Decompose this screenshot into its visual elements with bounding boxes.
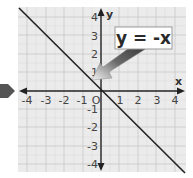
coordinate-graph: x y -4 -3 -2 -1 O 1 2 3 4 4 3 2 1 -1 -2 …	[0, 0, 193, 178]
x-axis-label: x	[175, 75, 182, 88]
x-tick-label: -1	[77, 94, 88, 107]
y-tick-label: 2	[91, 48, 98, 61]
y-tick-label: -1	[87, 103, 98, 116]
x-tick-label: -3	[41, 94, 52, 107]
x-tick-labels: -4 -3 -2 -1 O 1 2 3 4	[22, 94, 179, 107]
side-pointer-arrow	[0, 84, 15, 98]
y-axis-label: y	[106, 8, 113, 21]
y-tick-label: -4	[87, 158, 98, 171]
x-tick-label: 1	[117, 94, 124, 107]
y-tick-label: 3	[91, 30, 98, 43]
y-tick-label: 4	[91, 11, 98, 24]
y-tick-label: -2	[87, 121, 98, 134]
x-tick-label: 4	[172, 94, 179, 107]
x-tick-label: 3	[154, 94, 161, 107]
y-tick-label: -3	[87, 140, 98, 153]
x-tick-label: -4	[22, 94, 33, 107]
x-tick-label: -2	[59, 94, 70, 107]
x-tick-label: 2	[135, 94, 142, 107]
equation-label: y = -x	[116, 28, 171, 48]
